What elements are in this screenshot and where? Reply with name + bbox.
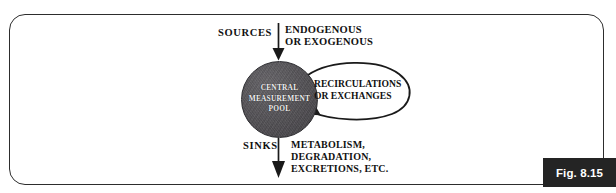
sinks-label: SINKS <box>243 140 278 152</box>
endogenous-exogenous-label: ENDOGENOUS OR EXOGENOUS <box>285 24 373 49</box>
central-measurement-pool-node: CENTRAL MEASUREMENT POOL <box>241 61 318 138</box>
central-pool-label: CENTRAL MEASUREMENT POOL <box>242 83 317 115</box>
figure-container: CENTRAL MEASUREMENT POOL SOURCES ENDOGEN… <box>0 0 616 193</box>
figure-number-text: Fig. 8.15 <box>556 167 603 179</box>
sources-arrow-icon <box>273 23 285 61</box>
metabolism-degradation-label: METABOLISM, DEGRADATION, EXCRETIONS, ETC… <box>291 139 388 174</box>
sources-label: SOURCES <box>218 27 272 39</box>
recirculations-exchanges-label: RECIRCULATIONS OR EXCHANGES <box>314 78 401 103</box>
figure-number-tab: Fig. 8.15 <box>543 158 616 187</box>
